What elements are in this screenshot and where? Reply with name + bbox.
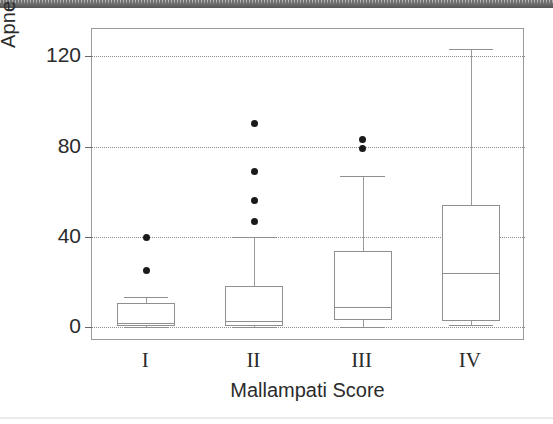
y-tick-0 <box>85 327 92 328</box>
whisker-upper-II <box>254 237 255 286</box>
scan-artifact-bottom-band <box>0 417 553 419</box>
whisker-cap-upper-IV <box>449 49 494 50</box>
outlier-point-I <box>143 267 150 274</box>
y-tick-120 <box>85 56 92 57</box>
y-axis-tick-label: 0 <box>21 315 81 336</box>
y-axis-tick-label: 120 <box>21 44 81 65</box>
median-IV <box>442 273 500 274</box>
scan-artifact-top-band <box>0 0 553 8</box>
outlier-point-II <box>251 197 258 204</box>
median-II <box>225 321 283 322</box>
whisker-cap-upper-II <box>232 237 277 238</box>
y-axis-tick-label: 40 <box>21 225 81 246</box>
outlier-point-III <box>359 136 366 143</box>
median-III <box>334 307 392 308</box>
whisker-cap-upper-I <box>124 297 169 298</box>
whisker-cap-lower-III <box>340 327 385 328</box>
y-axis-title: Apnea Hypopnea Index <box>0 0 18 48</box>
whisker-cap-lower-IV <box>449 325 494 326</box>
box-IV <box>442 205 500 320</box>
y-axis-tick-label: 80 <box>21 135 81 156</box>
outlier-point-III <box>359 145 366 152</box>
outlier-point-II <box>251 218 258 225</box>
box-III <box>334 251 392 320</box>
whisker-upper-III <box>363 176 364 251</box>
y-tick-40 <box>85 237 92 238</box>
y-tick-80 <box>85 147 92 148</box>
outlier-point-II <box>251 168 258 175</box>
median-I <box>117 323 175 324</box>
boxplot-figure: Apnea Hypopnea Index 04080120 IIIIIIIV M… <box>0 8 553 417</box>
whisker-cap-upper-III <box>340 176 385 177</box>
x-axis-category-label: III <box>317 348 407 373</box>
whisker-cap-lower-I <box>124 327 169 328</box>
x-axis-category-label: II <box>208 348 298 373</box>
gridline-y-80 <box>92 147 525 148</box>
outlier-point-II <box>251 120 258 127</box>
whisker-lower-III <box>363 320 364 328</box>
whisker-cap-lower-II <box>232 327 277 328</box>
outlier-point-I <box>143 234 150 241</box>
x-axis-category-label: I <box>100 348 190 373</box>
gridline-y-120 <box>92 56 525 57</box>
x-axis-title: Mallampati Score <box>91 379 524 402</box>
whisker-upper-IV <box>471 49 472 205</box>
x-axis-category-label: IV <box>425 348 515 373</box>
plot-area <box>91 28 524 340</box>
